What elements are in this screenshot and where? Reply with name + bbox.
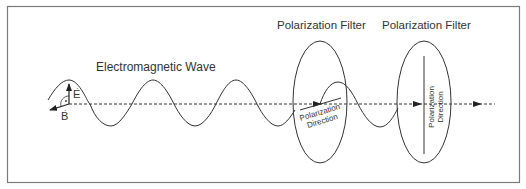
em-wave — [48, 80, 295, 126]
axis-arrow-end-icon — [473, 101, 482, 107]
polarization-filter-1 — [293, 41, 347, 163]
filter-2-label: Polarization Filter — [382, 19, 471, 31]
filter-1-label: Polarization Filter — [277, 19, 366, 31]
axis-arrow-mid-2-icon — [413, 101, 422, 107]
filter-2-direction-label: Polarization Direction — [427, 77, 445, 137]
wave-title: Electromagnetic Wave — [96, 60, 216, 74]
b-vector-overdot: · — [64, 106, 67, 115]
right-angle-dot — [65, 100, 67, 102]
filter-2-direction-line2: Direction — [436, 77, 445, 137]
e-vector-overdot: · — [76, 84, 79, 93]
filter-2-direction-line1: Polarization — [427, 77, 436, 137]
